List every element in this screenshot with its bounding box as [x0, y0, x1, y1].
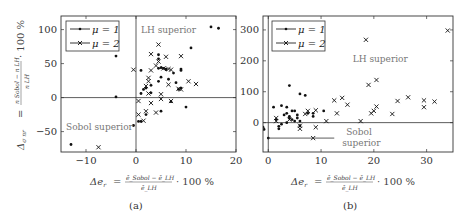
b-legend-marker-dot [285, 28, 288, 31]
a-point-mu1 [157, 80, 160, 83]
a-point-mu1 [157, 57, 160, 60]
b-xlabel-num: ē_Sobol − ē_LH [327, 174, 376, 182]
b-xlabel-lhs: Δer [290, 176, 308, 188]
a-point-mu2 [154, 64, 158, 68]
b-point-mu2 [335, 111, 339, 115]
a-point-mu2 [164, 55, 168, 59]
a-point-mu2 [144, 109, 148, 113]
b-xlabel: Δer = ē_Sobol − ē_LH ē_LH · 100 % [290, 174, 415, 192]
a-ylabel-tail: · 100 % [15, 20, 26, 58]
b-point-mu2 [345, 103, 349, 107]
b-point-mu1 [288, 84, 291, 87]
a-point-mu2 [136, 99, 140, 103]
a-point-mu1 [167, 78, 170, 81]
b-xlabel-eq: = [314, 176, 322, 187]
b-annotation-lh-superior: LH superior [353, 54, 409, 64]
a-point-mu2 [96, 145, 100, 149]
a-xlabel-den: ē_LH [141, 184, 158, 192]
b-point-mu2 [372, 109, 376, 113]
a-point-mu2 [136, 113, 140, 117]
b-point-mu2 [446, 28, 450, 32]
b-point-mu2 [298, 127, 302, 131]
b-point-mu1 [296, 117, 299, 120]
a-xtick-label: 0 [133, 155, 139, 166]
a-point-mu1 [172, 72, 175, 75]
b-xlabel-den: ē_LH [342, 184, 359, 192]
b-xtick-label: 30 [420, 155, 433, 166]
a-xtick-label: −10 [75, 155, 96, 166]
b-point-mu1 [299, 92, 302, 95]
a-point-mu2 [149, 52, 153, 56]
a-ytick-label: 50 [44, 58, 57, 69]
a-ytick-label: −50 [36, 126, 57, 137]
a-xlabel-num: ē_Sobol − ē_LH [126, 174, 175, 182]
b-xlabel-tail: · 100 % [377, 176, 415, 187]
b-point-mu1 [280, 104, 283, 107]
b-point-mu1 [304, 94, 307, 97]
b-point-mu1 [293, 109, 296, 112]
a-point-mu2 [154, 110, 158, 114]
b-xtick-label: 10 [315, 155, 328, 166]
a-point-mu2 [149, 101, 153, 105]
a-point-mu1 [150, 84, 153, 87]
a-ytick-label: 100 [38, 24, 57, 35]
b-point-mu1 [285, 106, 288, 109]
b-point-mu1 [288, 115, 291, 118]
b-legend-label-mu2: μ = 2 [298, 38, 326, 49]
b-point-mu1 [312, 115, 315, 118]
a-point-mu1 [115, 55, 118, 58]
b-point-mu2 [374, 104, 378, 108]
a-ylabel-eq: = [15, 110, 26, 118]
b-ytick-label: 0 [253, 117, 259, 128]
b-point-mu1 [296, 114, 299, 117]
a-point-mu1 [160, 76, 163, 79]
a-point-mu2 [166, 83, 170, 87]
a-ytick-label: 0 [51, 92, 57, 103]
a-legend-marker-dot [79, 28, 82, 31]
a-legend: μ = 1 μ = 2 [66, 21, 120, 51]
a-ylabel-den: n LH [23, 73, 30, 89]
b-xtick-label: 20 [367, 155, 380, 166]
b-point-mu1 [291, 109, 294, 112]
b-ytick-label: 200 [240, 55, 259, 66]
b-ytick-label: 300 [240, 24, 259, 35]
a-point-mu1 [180, 69, 183, 72]
b-point-mu1 [272, 106, 275, 109]
a-annotation-lh-superior: LH superior [141, 25, 197, 35]
a-point-mu2 [156, 42, 160, 46]
a-point-mu2 [179, 54, 183, 58]
panel-a: −1001020−50050100 LH superior Sobol supe… [13, 16, 242, 211]
b-point-mu2 [332, 98, 336, 102]
a-xlabel-lhs: Δer [89, 176, 107, 188]
b-point-mu2 [422, 98, 426, 102]
panel-b: 01020300100200300 LH superior Sobol supe… [240, 16, 453, 211]
figure: −1001020−50050100 LH superior Sobol supe… [0, 0, 455, 221]
b-point-mu1 [322, 109, 325, 112]
a-xtick-label: 10 [180, 155, 193, 166]
b-point-mu1 [277, 125, 280, 128]
a-point-mu2 [194, 82, 198, 86]
a-xlabel: Δer = ē_Sobol − ē_LH ē_LH · 100 % [89, 174, 214, 192]
a-point-mu1 [115, 96, 118, 99]
b-point-mu2 [390, 112, 394, 116]
a-point-mu1 [157, 53, 160, 56]
a-ylabel-lhs: Δσ nr [15, 129, 27, 151]
b-annotation-sobol: Sobol [346, 127, 372, 137]
a-point-mu2 [159, 92, 163, 96]
a-caption: (a) [129, 200, 143, 211]
a-point-mu1 [140, 92, 143, 95]
b-point-mu2 [366, 83, 370, 87]
a-xlabel-eq: = [113, 176, 121, 187]
a-point-mu2 [186, 79, 190, 83]
a-xlabel-tail: · 100 % [176, 176, 214, 187]
a-point-mu1 [210, 25, 213, 28]
a-point-mu1 [142, 88, 145, 91]
b-point-mu1 [283, 114, 286, 117]
b-ytick-label: 100 [240, 86, 259, 97]
b-point-mu2 [340, 96, 344, 100]
b-point-mu2 [395, 99, 399, 103]
b-point-mu2 [406, 95, 410, 99]
a-legend-label-mu1: μ = 1 [92, 24, 120, 35]
a-point-mu1 [160, 110, 163, 113]
b-legend-label-mu1: μ = 1 [298, 24, 326, 35]
